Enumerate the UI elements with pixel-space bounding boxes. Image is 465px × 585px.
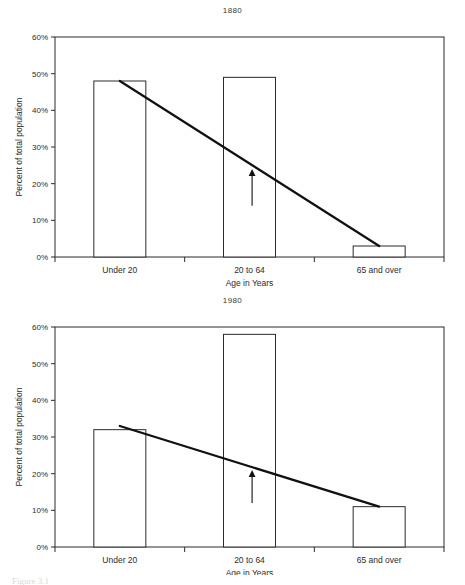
y-axis-tick-label: 10% — [32, 506, 48, 515]
chart-1980: 1980 0%10%20%30%40%50%60%Percent of tota… — [0, 290, 465, 571]
y-axis-tick-label: 0% — [36, 543, 48, 552]
x-axis-category-label: 65 and over — [357, 265, 402, 275]
chart-canvas-1880: 0%10%20%30%40%50%60%Percent of total pop… — [0, 17, 465, 292]
y-axis-tick-label: 60% — [32, 33, 48, 42]
y-axis-tick-label: 10% — [32, 216, 48, 225]
y-axis-title: Percent of total population — [14, 97, 24, 196]
chart-1880: 1880 0%10%20%30%40%50%60%Percent of tota… — [0, 0, 465, 290]
x-axis-title: Age in Years — [226, 278, 274, 288]
y-axis-tick-label: 40% — [32, 396, 48, 405]
y-axis-tick-label: 0% — [36, 253, 48, 262]
bar-65-and-over — [353, 507, 405, 547]
y-axis-tick-label: 20% — [32, 470, 48, 479]
x-axis-category-label: Under 20 — [102, 265, 137, 275]
chart-title: 1980 — [0, 290, 465, 307]
y-axis-tick-label: 50% — [32, 70, 48, 79]
x-axis-category-label: 20 to 64 — [234, 265, 265, 275]
y-axis-tick-label: 20% — [32, 180, 48, 189]
bar-20-to-64 — [224, 334, 276, 547]
y-axis-tick-label: 30% — [32, 143, 48, 152]
bar-65-and-over — [353, 246, 405, 257]
y-axis-tick-label: 40% — [32, 106, 48, 115]
x-axis-category-label: Under 20 — [102, 555, 137, 565]
x-axis-category-label: 65 and over — [357, 555, 402, 565]
chart-canvas-1980: 0%10%20%30%40%50%60%Percent of total pop… — [0, 307, 465, 575]
y-axis-title: Percent of total population — [14, 387, 24, 486]
y-axis-tick-label: 60% — [32, 323, 48, 332]
x-axis-category-label: 20 to 64 — [234, 555, 265, 565]
bar-under-20 — [94, 81, 146, 257]
x-axis-title: Age in Years — [226, 568, 274, 575]
bar-under-20 — [94, 430, 146, 547]
bar-20-to-64 — [224, 77, 276, 257]
figure-footnote: Figure 3.1 — [12, 576, 49, 585]
y-axis-tick-label: 50% — [32, 360, 48, 369]
y-axis-tick-label: 30% — [32, 433, 48, 442]
chart-title: 1880 — [0, 0, 465, 17]
